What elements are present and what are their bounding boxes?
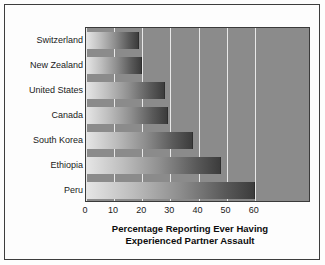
bar-row [86,153,310,178]
bar-canada [86,107,168,124]
bar-ethiopia [86,157,221,174]
bar-row [86,28,310,53]
bar-row [86,128,310,153]
x-tick-label: 60 [249,204,259,216]
y-tick-label: Ethiopia [7,160,83,170]
y-tick-label: New Zealand [7,60,83,70]
bar-south-korea [86,132,193,149]
bar-row [86,53,310,78]
bar-peru [86,182,255,199]
plot-area [85,27,310,202]
bar-new-zealand [86,57,142,74]
figure-frame: SwitzerlandNew ZealandUnited StatesCanad… [4,4,320,260]
bar-row [86,103,310,128]
x-axis-title: Percentage Reporting Ever HavingExperien… [65,223,315,247]
y-tick-label: Peru [7,185,83,195]
y-tick-label: Switzerland [7,35,83,45]
x-tick-label: 40 [192,204,202,216]
y-tick-label: Canada [7,110,83,120]
x-axis-title-line: Experienced Partner Assault [65,235,315,247]
x-tick-label: 0 [82,204,87,216]
x-tick-label: 20 [136,204,146,216]
y-axis-labels: SwitzerlandNew ZealandUnited StatesCanad… [5,27,83,202]
bar-row [86,78,310,103]
bar-row [86,178,310,202]
x-axis-tick-labels: 0102030405060 [85,204,310,218]
chart-figure: SwitzerlandNew ZealandUnited StatesCanad… [0,0,325,265]
bar-switzerland [86,32,139,49]
x-tick-label: 50 [221,204,231,216]
y-tick-label: United States [7,85,83,95]
x-tick-label: 30 [164,204,174,216]
x-tick-label: 10 [108,204,118,216]
x-axis-title-line: Percentage Reporting Ever Having [65,223,315,235]
y-tick-label: South Korea [7,135,83,145]
bar-united-states [86,82,165,99]
